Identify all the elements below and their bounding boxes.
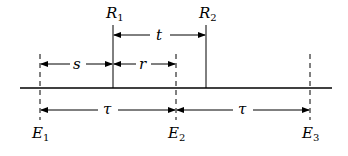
label-t: t [156, 26, 163, 44]
label-r2: R2 [198, 4, 217, 23]
label-r: r [139, 55, 147, 73]
label-e3: E3 [301, 124, 319, 143]
label-e1: E1 [31, 124, 49, 143]
label-tau-2: τ [238, 100, 247, 118]
label-s: s [73, 55, 81, 73]
label-r1: R1 [105, 4, 124, 23]
timing-diagram: R1 R2 t s r τ τ E1 E2 E3 [0, 0, 348, 156]
label-e2: E2 [167, 124, 185, 143]
label-tau-1: τ [103, 100, 112, 118]
